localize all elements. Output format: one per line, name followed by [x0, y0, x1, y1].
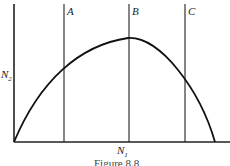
line-label-c: C	[188, 6, 195, 17]
diagram-canvas	[0, 0, 230, 166]
line-label-b: B	[132, 6, 139, 17]
figure-caption: Figure 8.8	[94, 158, 139, 166]
line-label-a: A	[67, 6, 74, 17]
y-axis-label: N2	[1, 69, 12, 83]
